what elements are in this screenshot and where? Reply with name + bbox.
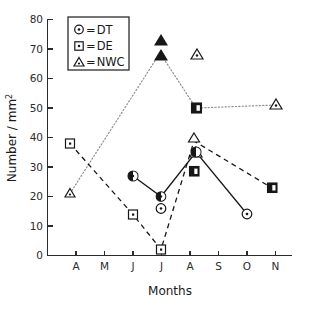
legend-label-nwc: =NWC	[86, 55, 125, 69]
square-dot-icon	[75, 42, 83, 50]
marker-de-sep-50	[192, 103, 202, 113]
x-tick-label-nov: N	[272, 260, 280, 272]
legend-label-dt: =DT	[86, 23, 113, 37]
marker-dt-jun-27	[128, 171, 138, 181]
x-tick-label-may: M	[100, 260, 109, 272]
y-axis-title: Number / mm2	[5, 94, 19, 182]
x-tick-label-apr: A	[72, 260, 80, 272]
x-tick-label-aug: A	[186, 260, 194, 272]
marker-dt-oct-14	[242, 209, 252, 219]
marker-nwc-jul-73	[155, 35, 167, 45]
svg-text:Number / mm2: Number / mm2	[5, 94, 19, 182]
x-axis-tick-labels: A M J J A S O N	[72, 260, 279, 272]
y-axis-tick-labels: 0 10 20 30 40 50 60 70 80	[30, 13, 43, 261]
marker-de-jun-14	[129, 210, 138, 219]
legend-label-de: =DE	[86, 39, 113, 53]
marker-nwc-aug-69	[191, 49, 203, 59]
marker-nwc-jul-68	[155, 50, 167, 60]
marker-nwc-aug-40	[189, 133, 200, 142]
x-tick-label-sep: S	[215, 260, 222, 272]
y-tick-label-80: 80	[30, 13, 43, 25]
x-axis-ticks	[76, 251, 276, 256]
y-axis-title-exponent: 2	[5, 94, 14, 99]
series-line-de	[70, 141, 272, 250]
y-tick-label-70: 70	[30, 43, 43, 55]
marker-dt-jul-16	[156, 204, 166, 214]
y-axis-title-main: Number / mm	[5, 99, 19, 182]
y-tick-label-30: 30	[30, 161, 43, 173]
chart-figure: 0 10 20 30 40 50 60 70 80 A M J J A	[0, 0, 312, 312]
y-tick-label-20: 20	[30, 190, 43, 202]
y-tick-label-40: 40	[30, 131, 43, 143]
marker-nwc-apr-21	[65, 189, 75, 198]
x-tick-label-jun: J	[130, 260, 134, 272]
series-line-dt	[133, 152, 247, 214]
y-axis-ticks	[48, 20, 53, 256]
marker-de-jul-2	[157, 245, 166, 254]
chart-plot-area: 0 10 20 30 40 50 60 70 80 A M J J A	[0, 0, 312, 312]
x-tick-label-oct: O	[243, 260, 251, 272]
x-tick-label-jul: J	[159, 260, 163, 272]
x-axis-title: Months	[148, 284, 192, 298]
marker-de-nov-23	[268, 183, 278, 193]
circle-dot-icon	[75, 25, 84, 34]
chart-legend: =DT =DE =NWC	[68, 17, 129, 70]
y-tick-label-0: 0	[36, 249, 43, 261]
y-tick-label-60: 60	[30, 72, 43, 84]
marker-de-aug-29	[190, 167, 200, 177]
marker-dt-jul-20	[156, 192, 166, 202]
y-tick-label-10: 10	[30, 220, 43, 232]
marker-nwc-nov-51	[270, 99, 282, 109]
y-tick-label-50: 50	[30, 102, 43, 114]
marker-dt-aug-35	[191, 147, 201, 157]
marker-de-apr-38	[66, 139, 75, 148]
series-line-nwc	[70, 53, 276, 194]
